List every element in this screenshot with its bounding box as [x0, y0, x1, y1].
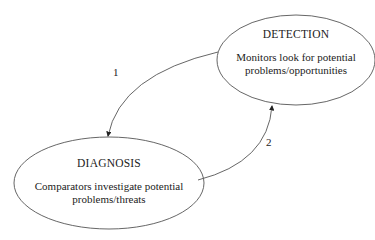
edge-2-label: 2: [266, 136, 272, 148]
diagnosis-title: DIAGNOSIS: [14, 157, 204, 170]
detection-node: DETECTION Monitors look for potential pr…: [217, 28, 375, 77]
diagnosis-desc-line-1: Comparators investigate potential: [14, 180, 204, 193]
detection-desc-line-2: problems/opportunities: [217, 64, 375, 77]
detection-desc-line-1: Monitors look for potential: [217, 51, 375, 64]
edge-1-label: 1: [113, 66, 119, 78]
edge-1-arrow: [108, 52, 218, 136]
detection-title: DETECTION: [217, 28, 375, 41]
edge-2-arrow: [198, 106, 272, 180]
diagnosis-node: DIAGNOSIS Comparators investigate potent…: [14, 157, 204, 206]
diagnosis-desc-line-2: problems/threats: [14, 193, 204, 206]
